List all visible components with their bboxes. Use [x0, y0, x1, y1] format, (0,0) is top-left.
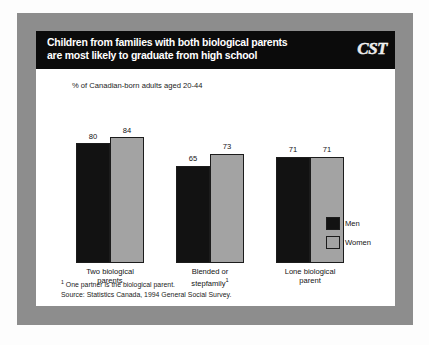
- legend-swatch-women-icon: [326, 236, 340, 249]
- bar-pair: 65 73: [176, 113, 244, 263]
- chart-frame-border: Children from families with both biologi…: [17, 13, 413, 325]
- footnote-note-text: One partner is the biological parent.: [66, 281, 175, 288]
- chart-plot-area: 80 84 Two biological parents: [36, 31, 395, 306]
- category-label-line-2: parent: [299, 276, 321, 285]
- legend-item-men[interactable]: Men: [326, 217, 371, 230]
- bar-women[interactable]: 84: [110, 137, 144, 263]
- legend-label-men: Men: [345, 219, 360, 228]
- legend-label-women: Women: [345, 238, 371, 247]
- category-label: Lone biological parent: [262, 267, 358, 286]
- chart-legend: Men Women: [326, 217, 371, 255]
- bar-women[interactable]: 73: [210, 154, 244, 264]
- bar-men[interactable]: 80: [76, 143, 110, 263]
- category-label-line-1: Lone biological: [285, 267, 336, 276]
- bar-value-label: 71: [277, 145, 309, 154]
- bar-value-label: 71: [311, 145, 343, 154]
- bar-value-label: 80: [77, 132, 109, 141]
- bar-value-label: 65: [177, 154, 209, 163]
- bar-value-label: 84: [111, 126, 143, 135]
- legend-item-women[interactable]: Women: [326, 236, 371, 249]
- chart-panel: Children from families with both biologi…: [36, 31, 395, 306]
- category-label-line-1: Two biological: [86, 267, 134, 276]
- footnote-note: 1 One partner is the biological parent.: [61, 278, 231, 290]
- legend-swatch-men-icon: [326, 217, 340, 230]
- footnotes: 1 One partner is the biological parent. …: [61, 278, 231, 299]
- page-background: Children from families with both biologi…: [0, 0, 429, 345]
- category-label-line-1: Blended or: [192, 267, 229, 276]
- bar-men[interactable]: 65: [176, 166, 210, 264]
- footnote-marker: 1: [61, 279, 64, 285]
- bar-value-label: 73: [211, 142, 243, 151]
- footnote-source: Source: Statistics Canada, 1994 General …: [61, 290, 231, 299]
- bar-pair: 80 84: [76, 113, 144, 263]
- bar-men[interactable]: 71: [276, 157, 310, 264]
